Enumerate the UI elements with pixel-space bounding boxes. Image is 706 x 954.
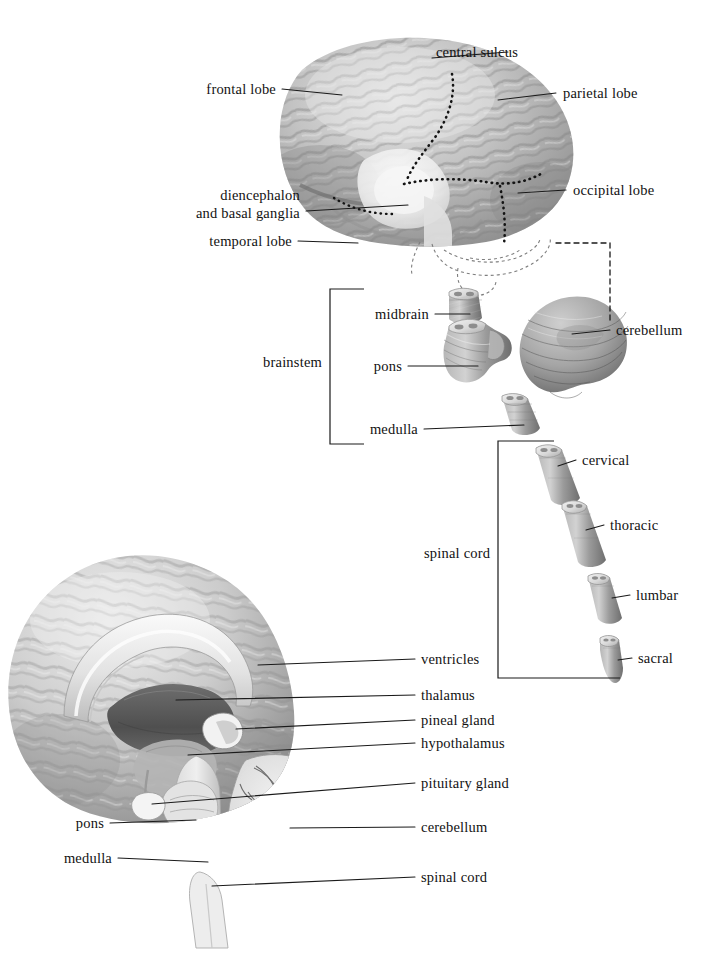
- label-pons: pons: [300, 358, 402, 375]
- label-text: sacral: [638, 650, 673, 666]
- label-text: pons: [76, 815, 104, 831]
- label-pons-sagittal: pons: [0, 815, 104, 832]
- label-text: medulla: [370, 421, 418, 437]
- medulla-illustration: [502, 394, 540, 435]
- label-text: thoracic: [610, 517, 658, 533]
- label-cerebellum-sagittal: cerebellum: [421, 819, 487, 836]
- label-medulla: medulla: [290, 421, 418, 438]
- spinal-segment-cervical: [536, 445, 580, 505]
- label-text: hypothalamus: [421, 735, 505, 751]
- cerebellum-3d-illustration: [520, 296, 628, 398]
- label-sacral: sacral: [638, 650, 673, 667]
- label-text: frontal lobe: [206, 81, 276, 97]
- label-diencephalon-basal-ganglia: diencephalon and basal ganglia: [60, 186, 300, 222]
- label-text: lumbar: [636, 587, 678, 603]
- label-text: temporal lobe: [209, 233, 292, 249]
- label-text: spinal cord: [424, 545, 490, 561]
- label-text: spinal cord: [421, 869, 487, 885]
- brain-anatomy-figure: central sulcus parietal lobe occipital l…: [0, 0, 706, 954]
- label-thoracic: thoracic: [610, 517, 658, 534]
- label-medulla-sagittal: medulla: [0, 850, 112, 867]
- label-pituitary-gland: pituitary gland: [421, 775, 509, 792]
- label-midbrain: midbrain: [300, 306, 429, 323]
- leader-medulla: [424, 425, 524, 429]
- label-ventricles: ventricles: [421, 651, 479, 668]
- label-text-line1: diencephalon: [220, 187, 300, 203]
- spinal-segment-lumbar: [588, 574, 622, 624]
- label-text: pituitary gland: [421, 775, 509, 791]
- label-cervical: cervical: [582, 452, 629, 469]
- label-spinal-cord-sagittal: spinal cord: [421, 869, 487, 886]
- illustration-layer: [0, 0, 706, 954]
- label-text: cerebellum: [616, 322, 682, 338]
- label-frontal-lobe: frontal lobe: [100, 81, 276, 98]
- label-text: pineal gland: [421, 712, 495, 728]
- label-spinal-cord-bracket: spinal cord: [424, 545, 490, 562]
- spinal-segment-thoracic: [562, 501, 606, 567]
- label-parietal-lobe: parietal lobe: [563, 85, 638, 102]
- label-text: cervical: [582, 452, 629, 468]
- label-pineal-gland: pineal gland: [421, 712, 495, 729]
- leader-medulla-sag: [118, 858, 208, 862]
- label-thalamus: thalamus: [421, 687, 475, 704]
- label-cerebellum-3d: cerebellum: [616, 322, 682, 339]
- label-text-line2: and basal ganglia: [196, 205, 300, 221]
- pons-illustration: [444, 319, 512, 382]
- lateral-brain-illustration: [260, 30, 590, 295]
- label-hypothalamus: hypothalamus: [421, 735, 505, 752]
- label-text: cerebellum: [421, 819, 487, 835]
- label-text: pons: [374, 358, 402, 374]
- label-text: midbrain: [375, 306, 429, 322]
- label-lumbar: lumbar: [636, 587, 678, 604]
- midsagittal-brain-illustration: [0, 545, 346, 948]
- label-text: parietal lobe: [563, 85, 638, 101]
- label-central-sulcus: central sulcus: [330, 44, 518, 61]
- label-text: medulla: [64, 850, 112, 866]
- label-temporal-lobe: temporal lobe: [100, 233, 292, 250]
- cerebellum-ghost-outline: [411, 238, 550, 295]
- leader-temporal-lobe: [298, 241, 358, 243]
- leader-cerebellum-sag: [290, 827, 415, 828]
- label-text: thalamus: [421, 687, 475, 703]
- label-text: ventricles: [421, 651, 479, 667]
- leader-spinal-cord-sag: [212, 877, 415, 886]
- label-text: central sulcus: [436, 44, 518, 60]
- label-occipital-lobe: occipital lobe: [573, 182, 654, 199]
- label-text: occipital lobe: [573, 182, 654, 198]
